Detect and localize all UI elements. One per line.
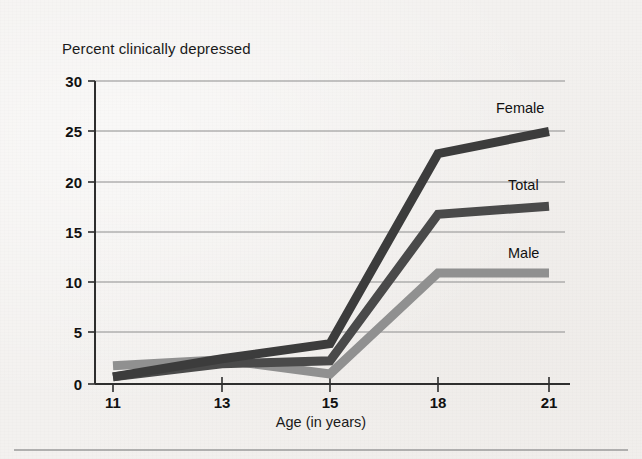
y-tick-label-20: 20 (65, 174, 82, 191)
y-tick-label-5: 5 (74, 324, 82, 341)
x-axis-title: Age (in years) (0, 414, 642, 430)
page-bottom-rule (14, 449, 628, 451)
series-label-female: Female (496, 100, 544, 116)
y-tick-label-0: 0 (74, 376, 82, 393)
x-tick-label-18: 18 (430, 394, 447, 411)
series-label-male: Male (508, 245, 539, 261)
x-tick-label-15: 15 (322, 394, 339, 411)
y-tick-marks (88, 81, 95, 384)
x-tick-label-11: 11 (105, 394, 121, 411)
y-tick-label-10: 10 (65, 274, 82, 291)
y-tick-label-25: 25 (65, 123, 82, 140)
data-line-female (113, 132, 549, 377)
figure-page: Percent clinically depressed 30 25 20 (0, 0, 642, 459)
x-tick-label-13: 13 (214, 394, 231, 411)
series-label-total: Total (508, 177, 539, 193)
x-tick-label-21: 21 (541, 394, 558, 411)
chart-plot-area: 30 25 20 15 10 5 0 11 13 15 18 21 Female… (0, 0, 642, 459)
y-tick-label-15: 15 (65, 224, 82, 241)
y-tick-label-30: 30 (65, 73, 82, 90)
